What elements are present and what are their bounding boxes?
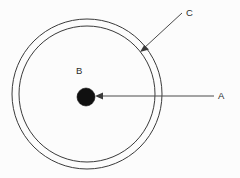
label-c: C bbox=[186, 7, 193, 18]
label-b: B bbox=[76, 65, 83, 76]
diagram-canvas: A B C bbox=[0, 0, 240, 178]
center-dot bbox=[77, 88, 95, 106]
concentric-circles-diagram: A B C bbox=[0, 0, 240, 178]
label-a: A bbox=[218, 90, 225, 101]
